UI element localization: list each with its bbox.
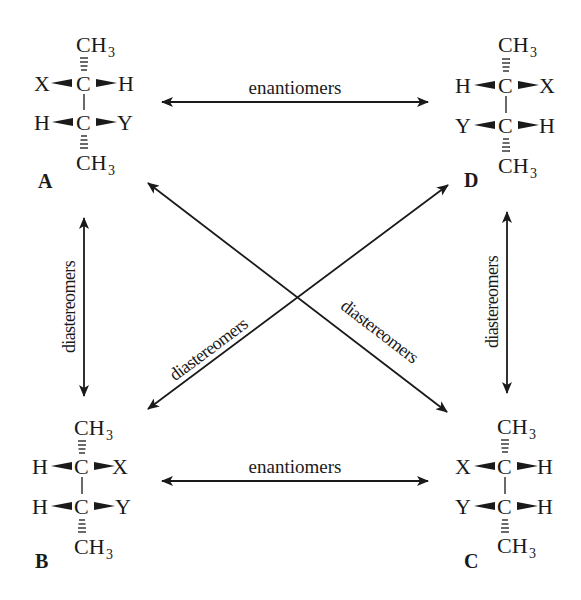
relation-label: diastereomers xyxy=(337,295,423,367)
row1-carbon: C xyxy=(497,454,512,479)
bottom-methyl-subscript: 3 xyxy=(108,163,115,178)
wedge-bond-right xyxy=(96,79,117,87)
molecule-label: D xyxy=(464,169,478,191)
wedge-bond-left xyxy=(51,79,72,87)
wedge-bond-right xyxy=(518,121,539,129)
row2-carbon: C xyxy=(497,494,512,519)
relation-label: enantiomers xyxy=(249,77,342,98)
hashed-bond-bottom xyxy=(501,520,509,532)
row2-carbon: C xyxy=(498,113,513,138)
wedge-bond-right xyxy=(517,502,538,510)
row2-carbon: C xyxy=(76,110,91,135)
bottom-methyl-subscript: 3 xyxy=(530,166,537,181)
wedge-bond-right xyxy=(96,118,117,126)
row1-carbon: C xyxy=(76,71,91,96)
molecule-a: CH 3 X C H H C Y CH 3 A xyxy=(34,32,134,192)
wedge-bond-left xyxy=(51,502,72,510)
molecule-label: C xyxy=(464,550,478,572)
wedge-bond-left xyxy=(474,121,495,129)
molecule-d: CH 3 H C X Y C H CH 3 D xyxy=(455,32,555,191)
hashed-bond-bottom xyxy=(502,139,510,151)
wedge-bond-left xyxy=(51,462,72,470)
relation-a-d: enantiomers xyxy=(162,77,428,102)
top-methyl: CH xyxy=(76,32,107,57)
molecule-label: B xyxy=(35,550,48,572)
hashed-bond-bottom xyxy=(78,520,86,532)
row2-carbon: C xyxy=(74,494,89,519)
bottom-methyl-subscript: 3 xyxy=(529,546,536,561)
row2-right-atom: Y xyxy=(115,494,131,519)
relation-label: diastereomers xyxy=(482,255,502,348)
wedge-bond-right xyxy=(518,81,539,89)
relation-a-c: diastereomers xyxy=(148,183,447,412)
hashed-bond-top xyxy=(501,440,509,452)
row1-carbon: C xyxy=(74,454,89,479)
row1-left-atom: H xyxy=(455,73,471,98)
wedge-bond-left xyxy=(474,81,495,89)
row2-right-atom: Y xyxy=(117,110,133,135)
row1-left-atom: X xyxy=(34,71,50,96)
diagram-svg: CH 3 X C H H C Y CH 3 A CH 3 H C X xyxy=(0,0,581,600)
row2-right-atom: H xyxy=(539,113,555,138)
row1-right-atom: H xyxy=(118,71,134,96)
relation-d-c: diastereomers xyxy=(482,212,507,393)
bottom-methyl: CH xyxy=(74,534,105,559)
stereoisomer-relationship-diagram: CH 3 X C H H C Y CH 3 A CH 3 H C X xyxy=(0,0,581,600)
hashed-bond-top xyxy=(502,59,510,71)
row1-right-atom: H xyxy=(537,454,553,479)
wedge-bond-right xyxy=(517,462,538,470)
row1-carbon: C xyxy=(498,73,513,98)
bottom-methyl: CH xyxy=(497,533,528,558)
top-methyl-subscript: 3 xyxy=(529,427,536,442)
row2-left-atom: Y xyxy=(455,494,471,519)
bottom-methyl-subscript: 3 xyxy=(106,547,113,562)
top-methyl: CH xyxy=(74,415,105,440)
row2-left-atom: Y xyxy=(455,113,471,138)
wedge-bond-left xyxy=(474,462,495,470)
molecule-b: CH 3 H C X H C Y CH 3 B xyxy=(32,415,131,572)
double-arrow xyxy=(148,183,447,412)
wedge-bond-left xyxy=(52,118,73,126)
row1-right-atom: X xyxy=(112,454,128,479)
hashed-bond-top xyxy=(78,441,86,453)
relation-b-c: enantiomers xyxy=(162,456,428,481)
bottom-methyl: CH xyxy=(76,150,107,175)
bottom-methyl: CH xyxy=(498,153,529,178)
hashed-bond-top xyxy=(80,58,88,70)
top-methyl: CH xyxy=(498,32,529,57)
row2-left-atom: H xyxy=(34,110,50,135)
top-methyl-subscript: 3 xyxy=(108,45,115,60)
molecule-c: CH 3 X C H Y C H CH 3 C xyxy=(455,414,553,572)
row1-right-atom: X xyxy=(539,73,555,98)
top-methyl: CH xyxy=(497,414,528,439)
relation-label: diastereomers xyxy=(59,260,79,353)
top-methyl-subscript: 3 xyxy=(530,45,537,60)
wedge-bond-left xyxy=(474,502,495,510)
row2-right-atom: H xyxy=(537,494,553,519)
relation-label: diastereomers xyxy=(166,313,252,385)
molecule-label: A xyxy=(38,170,53,192)
row1-left-atom: X xyxy=(455,454,471,479)
relation-label: enantiomers xyxy=(249,456,342,477)
row2-left-atom: H xyxy=(32,494,48,519)
hashed-bond-bottom xyxy=(80,136,88,148)
wedge-bond-right xyxy=(94,502,115,510)
top-methyl-subscript: 3 xyxy=(106,428,113,443)
relation-a-b: diastereomers xyxy=(59,218,84,396)
row1-left-atom: H xyxy=(32,454,48,479)
